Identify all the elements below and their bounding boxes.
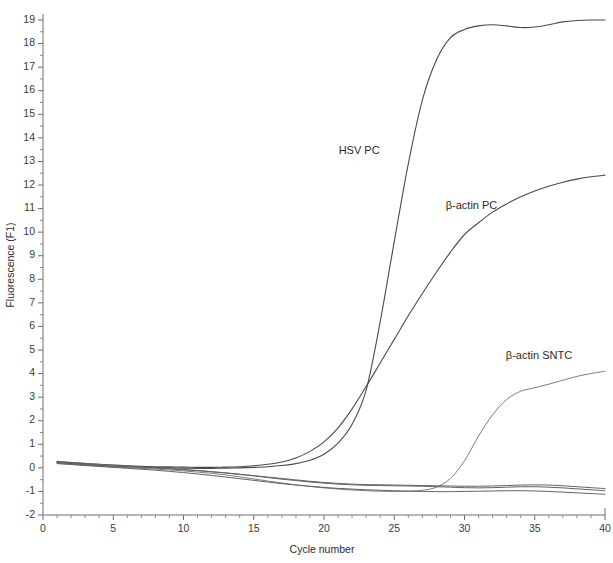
y-tick-label: 7 (29, 296, 35, 308)
y-tick-label: 14 (23, 131, 35, 143)
y-tick-label: 17 (23, 60, 35, 72)
y-tick-label: 16 (23, 83, 35, 95)
qpcr-amplification-chart: -2-1012345678910111213141516171819 05101… (0, 0, 613, 563)
x-tick-label: 40 (599, 522, 611, 534)
y-tick-label: 19 (23, 13, 35, 25)
y-tick-label: 10 (23, 225, 35, 237)
x-tick-label: 35 (529, 522, 541, 534)
y-tick-label: 3 (29, 390, 35, 402)
y-tick-label: 4 (29, 366, 35, 378)
y-tick-label: 6 (29, 319, 35, 331)
x-tick-label: 25 (388, 522, 400, 534)
y-tick-label: 5 (29, 343, 35, 355)
y-tick-label: 9 (29, 248, 35, 260)
series-annotations: HSV PCβ-actin PCβ-actin SNTC (339, 144, 572, 361)
y-tick-label: 1 (29, 437, 35, 449)
x-tick-label: 15 (248, 522, 260, 534)
series-curve (57, 20, 605, 468)
x-axis: 0510152025303540 (40, 508, 611, 534)
x-tick-label: 30 (459, 522, 471, 534)
x-axis-title: Cycle number (290, 543, 355, 555)
x-tick-label: 5 (110, 522, 116, 534)
series-lines (57, 20, 605, 494)
x-tick-label: 20 (318, 522, 330, 534)
y-tick-label: 0 (29, 461, 35, 473)
series-curve (57, 175, 605, 467)
x-tick-label: 10 (178, 522, 190, 534)
series-label: β-actin PC (446, 199, 498, 211)
y-axis-title: Fluorescence (F1) (4, 222, 16, 307)
series-label: β-actin SNTC (506, 349, 572, 361)
y-tick-label: 11 (24, 201, 35, 213)
series-curve (57, 371, 605, 491)
plot-area: -2-1012345678910111213141516171819 05101… (0, 0, 613, 563)
y-axis: -2-1012345678910111213141516171819 (23, 13, 43, 520)
x-tick-label: 0 (40, 522, 46, 534)
y-tick-label: 15 (23, 107, 35, 119)
y-tick-label: 18 (23, 36, 35, 48)
y-tick-label: 13 (23, 154, 35, 166)
y-tick-label: -1 (26, 484, 35, 496)
y-tick-label: -2 (26, 508, 35, 520)
series-curve (57, 461, 605, 488)
series-label: HSV PC (339, 144, 380, 156)
y-tick-label: 8 (29, 272, 35, 284)
y-tick-label: 2 (29, 413, 35, 425)
y-tick-label: 12 (23, 178, 35, 190)
